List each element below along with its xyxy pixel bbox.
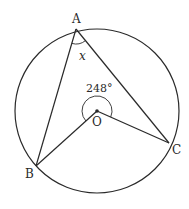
angle-arc-a [72, 41, 86, 44]
radius-ob [36, 111, 97, 166]
angle-label-248: 248° [86, 82, 113, 95]
angle-label-x: x [79, 49, 86, 63]
radius-oc [97, 111, 169, 143]
label-b: B [25, 167, 34, 181]
label-o: O [92, 115, 102, 129]
centre-dot [95, 109, 99, 113]
circle-theorem-diagram: A B C O x 248° [0, 0, 189, 209]
label-c: C [172, 143, 181, 157]
label-a: A [71, 12, 81, 26]
